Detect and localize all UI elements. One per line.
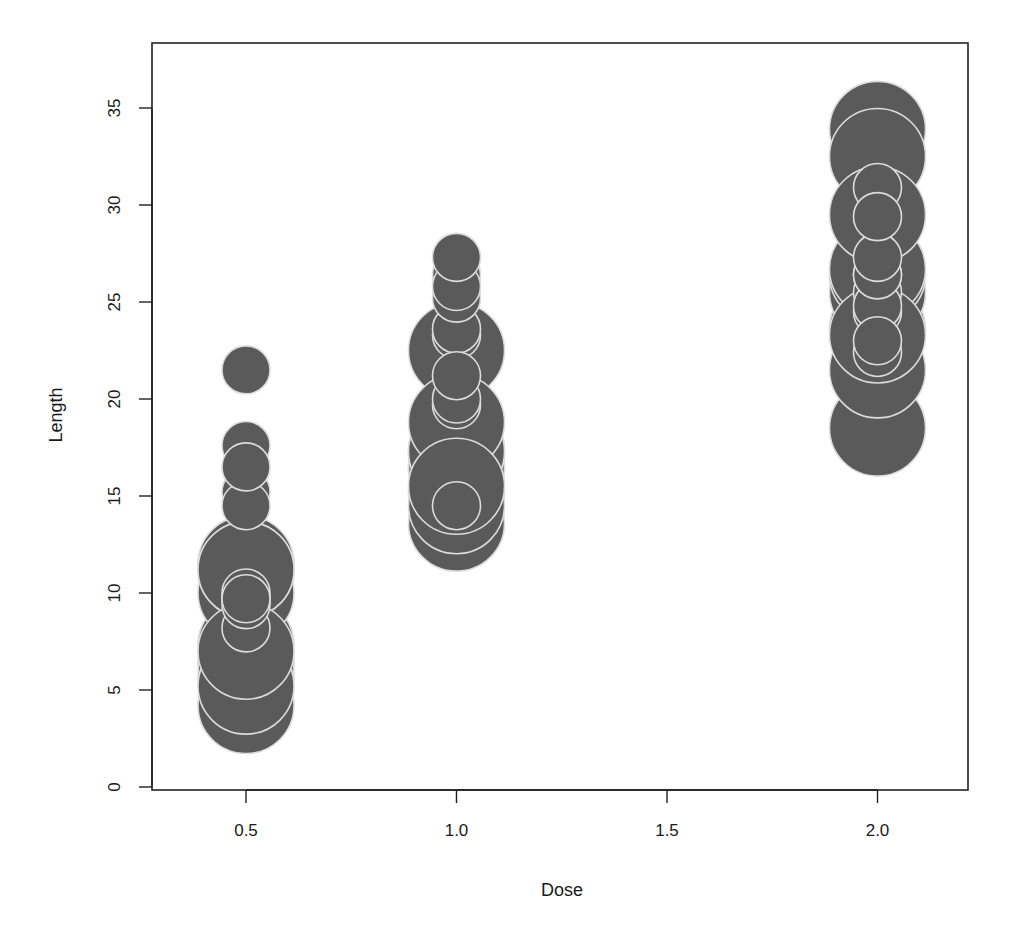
x-tick-label: 0.5 xyxy=(234,821,258,840)
bubble-point xyxy=(433,352,481,400)
bubble-point xyxy=(854,193,902,241)
y-tick-label: 30 xyxy=(105,196,124,215)
y-tick-label: 15 xyxy=(105,487,124,506)
y-tick-label: 35 xyxy=(105,99,124,118)
y-tick-label: 5 xyxy=(105,685,124,694)
y-axis: 05101520253035 xyxy=(105,99,152,792)
y-tick-label: 10 xyxy=(105,584,124,603)
bubble-layer xyxy=(198,81,926,753)
bubble-point xyxy=(433,233,481,281)
x-axis: 0.51.01.52.0 xyxy=(234,790,889,840)
y-tick-label: 25 xyxy=(105,293,124,312)
y-axis-title: Length xyxy=(46,387,66,442)
bubble-point xyxy=(222,346,270,394)
x-tick-label: 1.5 xyxy=(655,821,679,840)
bubble-chart: 0.51.01.52.0 05101520253035 Dose Length xyxy=(0,0,1016,934)
x-axis-title: Dose xyxy=(541,880,583,900)
x-tick-label: 1.0 xyxy=(445,821,469,840)
y-tick-label: 20 xyxy=(105,390,124,409)
bubble-point xyxy=(854,317,902,365)
y-tick-label: 0 xyxy=(105,782,124,791)
bubble-point xyxy=(433,482,481,530)
x-tick-label: 2.0 xyxy=(866,821,890,840)
bubble-point xyxy=(222,575,270,623)
bubble-point xyxy=(222,443,270,491)
